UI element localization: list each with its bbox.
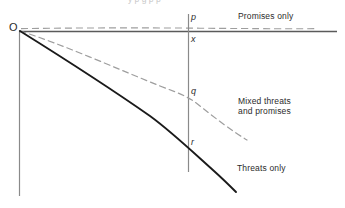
point-label-q: q (191, 86, 196, 97)
promises-only-dashed-overlay (21, 28, 318, 29)
annotation-threats-only: Threats only (237, 163, 286, 173)
annotation-mixed-line1: Mixed threats (238, 96, 291, 106)
point-label-r: r (191, 137, 194, 148)
annotation-mixed-line2: and promises (238, 106, 291, 116)
threats-only-curve (20, 31, 236, 192)
annotation-promises-only: Promises only (238, 11, 293, 21)
point-label-p: p (191, 12, 196, 23)
figure-canvas (0, 0, 345, 208)
point-label-x: x (191, 34, 196, 45)
figure-container: y p g p p O p x q r Promises only Mixed … (0, 0, 345, 208)
origin-label: O (9, 21, 18, 34)
mixed-threats-and-promises-curve (20, 31, 247, 140)
